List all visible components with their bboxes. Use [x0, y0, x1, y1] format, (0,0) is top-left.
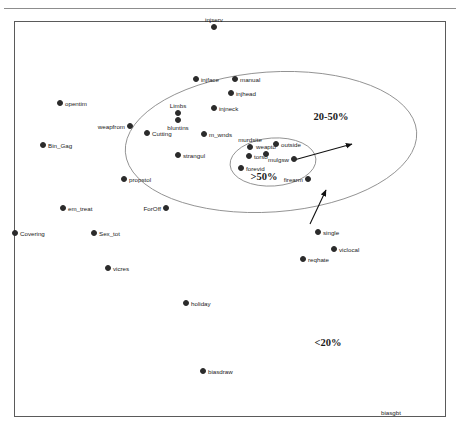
point-label: single	[323, 229, 339, 236]
data-point	[163, 205, 169, 211]
point-label: propstol	[129, 176, 151, 183]
data-point	[331, 246, 337, 252]
data-point	[175, 117, 181, 123]
data-point	[246, 153, 252, 159]
data-point	[211, 105, 217, 111]
data-point	[193, 76, 199, 82]
data-point	[238, 165, 244, 171]
point-label: injserv	[205, 16, 223, 23]
point-label: m_wnds	[209, 131, 232, 138]
data-point	[247, 144, 253, 150]
point-label: Limbs	[170, 102, 187, 109]
point-label: ForOff	[144, 205, 161, 212]
point-label: reqhate	[308, 256, 329, 263]
data-point	[60, 205, 66, 211]
data-point	[175, 152, 181, 158]
point-label: injface	[201, 76, 219, 83]
data-point	[121, 176, 127, 182]
point-label: injhead	[236, 90, 256, 97]
data-point	[144, 130, 150, 136]
point-label: biasdraw	[208, 368, 233, 375]
point-label: outside	[281, 141, 301, 148]
data-point	[291, 156, 297, 162]
point-label: mulgsw	[268, 156, 289, 163]
region-percentage-label: 20-50%	[314, 111, 349, 122]
point-label: injneck	[219, 105, 238, 112]
point-label: murdsite	[238, 136, 262, 143]
data-point	[315, 229, 321, 235]
data-point	[305, 176, 311, 182]
point-label: opentim	[65, 100, 87, 107]
point-label: holiday	[191, 300, 211, 307]
data-point	[228, 90, 234, 96]
arrow-layer	[294, 144, 352, 224]
point-label: Sex_tot	[99, 230, 120, 237]
point-label: Bin_Gag	[48, 142, 72, 149]
point-label: manual	[240, 76, 260, 83]
point-label: Covering	[20, 230, 45, 237]
axis-tick-label: biasgbt	[381, 409, 401, 416]
data-point	[200, 368, 206, 374]
figure-root: injservinjfacemanualinjheadinjneckopenti…	[0, 0, 460, 432]
data-point	[40, 142, 46, 148]
point-label: weapto	[256, 143, 276, 150]
region-percentage-label: <20%	[315, 337, 342, 348]
point-label: firearm	[284, 176, 303, 183]
contour-layer	[120, 62, 421, 222]
upper-arrow	[294, 144, 352, 160]
data-point	[12, 230, 18, 236]
data-point	[211, 24, 217, 30]
data-point	[232, 76, 238, 82]
point-label: Cutting	[152, 130, 172, 137]
point-label: em_treat	[68, 205, 92, 212]
point-label: weapfrom	[98, 123, 125, 130]
data-point	[183, 300, 189, 306]
data-point	[300, 256, 306, 262]
outer-ellipse	[120, 62, 421, 222]
point-label: vicres	[113, 265, 129, 272]
data-point	[57, 100, 63, 106]
data-point	[105, 265, 111, 271]
region-percentage-label: >50%	[251, 171, 278, 182]
point-label: viclocal	[339, 246, 359, 253]
point-label: strangul	[183, 152, 205, 159]
data-point	[175, 110, 181, 116]
data-point	[201, 131, 207, 137]
data-point	[91, 230, 97, 236]
data-point	[127, 123, 133, 129]
